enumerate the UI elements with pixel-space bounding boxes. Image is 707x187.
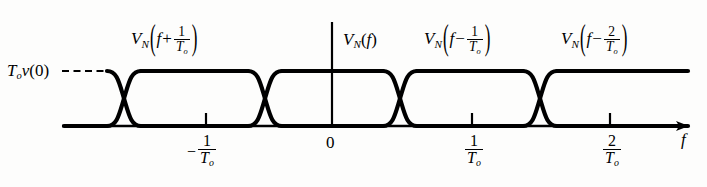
cl4-numerator: 2 [604, 25, 620, 39]
tick-label-origin: 0 [326, 134, 335, 151]
crossover-2-rising [248, 71, 282, 126]
cl3-numerator: 1 [467, 25, 483, 39]
cl3-denominator: To [467, 39, 483, 55]
tk1-denominator: To [198, 149, 216, 168]
cl4-fraction: 2To [604, 25, 620, 55]
tk1-fraction: 1To [198, 133, 216, 169]
cl4-open-paren: ( [580, 20, 586, 55]
tk1-numerator: 1 [198, 133, 216, 149]
cl3-open-paren: ( [443, 20, 449, 55]
y-reference-label: Tov(0) [7, 62, 49, 82]
tk3-numerator: 1 [465, 133, 483, 149]
cl4-denominator: To [604, 39, 620, 55]
cl2-V: V [343, 30, 353, 49]
cl3-V: V [424, 29, 434, 48]
cl1-open-paren: ( [150, 20, 156, 55]
tk3-denominator: To [465, 149, 483, 168]
tick-label-neg-1-over-T0: −1To [186, 133, 217, 169]
cl3-operator: − [454, 29, 466, 48]
label-vn-f: VN(f) [343, 31, 377, 51]
cl1-numerator: 1 [174, 25, 190, 39]
tk1-sign: − [186, 143, 197, 160]
crossover-4-rising [523, 71, 557, 126]
x-axis-label: f [681, 131, 686, 148]
figure-canvas: Tov(0) VN(f+1To) VN(f) VN(f−1To) VN(f−2T… [0, 0, 707, 187]
cl1-V-subscript: N [141, 38, 148, 50]
tk4-numerator: 2 [603, 133, 621, 149]
label-vn-f-minus-2-T0: VN(f−2To) [561, 25, 628, 55]
crossover-1-rising [107, 71, 141, 126]
cl1-close-paren: ) [192, 20, 198, 55]
cl3-V-subscript: N [434, 38, 441, 50]
label-vn-f-plus-1-T0: VN(f+1To) [131, 25, 198, 55]
cl4-V-subscript: N [571, 38, 578, 50]
cl1-denominator: To [174, 39, 190, 55]
cl2-close-paren: ) [371, 30, 377, 49]
cl1-operator: + [161, 29, 173, 48]
cl1-fraction: 1To [174, 25, 190, 55]
crossover-3-rising [383, 71, 417, 126]
cl4-close-paren: ) [622, 20, 628, 55]
cl3-fraction: 1To [467, 25, 483, 55]
tk4-fraction: 2To [603, 133, 621, 169]
cl1-V: V [131, 29, 141, 48]
y-ref-arg: (0) [29, 61, 49, 80]
cl4-V: V [561, 29, 571, 48]
tk3-fraction: 1To [465, 133, 483, 169]
tick-label-pos-2-over-T0: 2To [602, 133, 622, 169]
cl4-operator: − [591, 29, 603, 48]
cl2-V-subscript: N [353, 38, 360, 50]
tick-label-pos-1-over-T0: 1To [464, 133, 484, 169]
spectra-curves [64, 71, 688, 126]
label-vn-f-minus-1-T0: VN(f−1To) [424, 25, 491, 55]
cl3-close-paren: ) [485, 20, 491, 55]
tk4-denominator: To [603, 149, 621, 168]
